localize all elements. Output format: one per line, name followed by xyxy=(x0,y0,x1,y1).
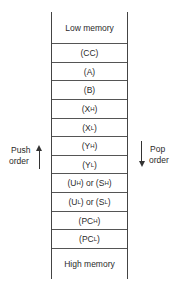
cell-uh-sh: (UH) or (SH) xyxy=(52,173,127,192)
cell-yh: (YH) xyxy=(52,136,127,155)
cell-label: (CC) xyxy=(81,48,99,58)
cell-b: (B) xyxy=(52,80,127,99)
cell-pcl: (PCL) xyxy=(52,229,127,248)
cell-label: (PC xyxy=(79,234,94,244)
cell-mid: ) or (S xyxy=(81,178,105,188)
cell-suffix: ) xyxy=(94,123,97,133)
cell-suffix: ) xyxy=(109,178,112,188)
cell-suffix: ) xyxy=(108,197,111,207)
cell-label: (U xyxy=(67,178,76,188)
pop-label-line2: order xyxy=(149,155,169,166)
push-arrow-shaft xyxy=(39,150,40,169)
cell-label: (X xyxy=(82,104,91,114)
cell-label: (A) xyxy=(84,67,95,77)
cell-pch: (PCH) xyxy=(52,211,127,229)
push-label-line2: order xyxy=(9,156,30,167)
pop-arrow-shaft xyxy=(141,141,142,162)
cell-xh: (XH) xyxy=(52,99,127,118)
cell-label: (U xyxy=(68,197,77,207)
cell-label: (PC xyxy=(79,216,94,226)
cell-suffix: ) xyxy=(95,104,98,114)
cell-suffix: ) xyxy=(94,160,97,170)
cell-low-memory: Low memory xyxy=(52,12,127,43)
cell-xl: (XL) xyxy=(52,118,127,136)
cell-label: (X xyxy=(82,123,91,133)
cell-a: (A) xyxy=(52,62,127,80)
pop-label-line1: Pop xyxy=(150,144,169,155)
pop-arrow-down-icon xyxy=(139,161,145,167)
push-order-label: Push order xyxy=(11,145,30,167)
cell-label: (B) xyxy=(84,85,95,95)
cell-high-memory: High memory xyxy=(52,248,127,279)
cell-mid: ) or (S xyxy=(81,197,105,207)
cell-suffix: ) xyxy=(98,216,101,226)
cell-label: High memory xyxy=(64,259,115,269)
cell-label: (Y xyxy=(82,141,91,151)
cell-suffix: ) xyxy=(97,234,100,244)
cell-suffix: ) xyxy=(95,141,98,151)
cell-yl: (YL) xyxy=(52,155,127,173)
cell-label: Low memory xyxy=(65,23,114,33)
pop-order-label: Pop order xyxy=(149,144,169,166)
cell-ul-sl: (UL) or (SL) xyxy=(52,192,127,211)
cell-cc: (CC) xyxy=(52,43,127,62)
memory-stack: Low memory (CC) (A) (B) (XH) (XL) (YH) (… xyxy=(51,12,128,279)
push-label-line1: Push xyxy=(11,145,30,156)
cell-label: (Y xyxy=(82,160,91,170)
